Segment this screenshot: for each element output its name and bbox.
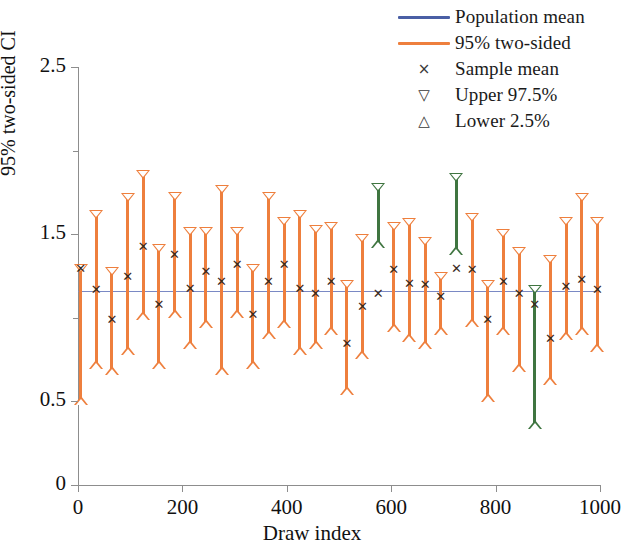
confidence-interval-bar xyxy=(79,268,82,402)
y-tick xyxy=(71,67,78,68)
y-tick xyxy=(71,485,78,486)
upper-bound-marker-fill xyxy=(311,226,321,232)
lower-bound-marker-fill xyxy=(154,363,164,369)
sample-mean-marker: ✕ xyxy=(420,278,431,291)
x-tick xyxy=(391,485,392,492)
upper-bound-marker-fill xyxy=(451,174,461,180)
sample-mean-marker: ✕ xyxy=(561,280,572,293)
confidence-interval-bar xyxy=(377,187,380,244)
sample-mean-marker: ✕ xyxy=(498,275,509,288)
lower-bound-marker-fill xyxy=(498,329,508,335)
lower-bound-marker-fill xyxy=(577,329,587,335)
upper-bound-marker-fill xyxy=(264,193,274,199)
lower-bound-marker-fill xyxy=(138,314,148,320)
upper-bound-marker-fill xyxy=(217,186,227,192)
x-tick-label: 800 xyxy=(480,495,512,520)
lower-bound-marker-fill xyxy=(404,336,414,342)
upper-bound-marker-fill xyxy=(154,245,164,251)
sample-mean-marker: ✕ xyxy=(482,313,493,326)
sample-mean-marker: ✕ xyxy=(185,281,196,294)
upper-bound-marker-fill xyxy=(138,171,148,177)
x-tick xyxy=(496,485,497,492)
sample-mean-marker: ✕ xyxy=(529,298,540,311)
sample-mean-marker: ✕ xyxy=(169,248,180,261)
confidence-interval-bar xyxy=(267,196,270,335)
upper-bound-marker-fill xyxy=(483,281,493,287)
sample-mean-marker: ✕ xyxy=(247,308,258,321)
y-tick-label: 0 xyxy=(56,471,67,496)
lower-bound-marker-fill xyxy=(451,249,461,255)
upper-bound-marker-fill xyxy=(467,214,477,220)
legend-key xyxy=(393,16,455,19)
y-tick xyxy=(71,401,78,402)
upper-bound-marker-fill xyxy=(545,256,555,262)
lower-bound-marker-fill xyxy=(436,329,446,335)
x-tick xyxy=(600,485,601,492)
sample-mean-marker: ✕ xyxy=(404,276,415,289)
lower-bound-marker-fill xyxy=(217,369,227,375)
legend-item-0[interactable]: Population mean xyxy=(393,4,621,30)
sample-mean-marker: ✕ xyxy=(326,275,337,288)
lower-bound-marker-fill xyxy=(311,343,321,349)
lower-bound-marker-fill xyxy=(420,343,430,349)
x-tick xyxy=(182,485,183,492)
sample-mean-marker: ✕ xyxy=(232,258,243,271)
sample-mean-marker: ✕ xyxy=(91,283,102,296)
upper-bound-marker-fill xyxy=(420,238,430,244)
confidence-interval-bar xyxy=(236,231,239,315)
confidence-interval-bar xyxy=(455,177,458,251)
lower-bound-marker-fill xyxy=(545,379,555,385)
confidence-interval-bar xyxy=(361,238,364,355)
lower-bound-marker-fill xyxy=(279,322,289,328)
y-axis-title: 95% two-sided CI xyxy=(0,0,20,176)
sample-mean-marker: ✕ xyxy=(451,261,462,274)
confidence-interval-bar xyxy=(283,221,286,325)
x-tick-label: 400 xyxy=(271,495,303,520)
lower-bound-marker-fill xyxy=(342,389,352,395)
confidence-interval-bar xyxy=(424,241,427,345)
line-swatch xyxy=(398,42,450,45)
lower-bound-marker-fill xyxy=(185,343,195,349)
sample-mean-marker: ✕ xyxy=(592,283,603,296)
x-tick-label: 0 xyxy=(73,495,84,520)
y-tick-label: 1.5 xyxy=(40,220,66,245)
lower-bound-marker-fill xyxy=(357,353,367,359)
x-tick xyxy=(78,485,79,492)
chart-figure: Population mean95% two-sided×Sample mean… xyxy=(0,0,624,553)
upper-bound-marker-fill xyxy=(404,219,414,225)
sample-mean-marker: ✕ xyxy=(373,286,384,299)
lower-bound-marker-fill xyxy=(107,369,117,375)
sample-mean-marker: ✕ xyxy=(435,290,446,303)
sample-mean-marker: ✕ xyxy=(263,275,274,288)
plot-area: ✕✕✕✕✕✕✕✕✕✕✕✕✕✕✕✕✕✕✕✕✕✕✕✕✕✕✕✕✕✕✕✕✕✕ xyxy=(78,67,600,485)
lower-bound-marker-fill xyxy=(467,321,477,327)
lower-bound-marker-fill xyxy=(483,396,493,402)
legend-label: Population mean xyxy=(455,6,585,28)
sample-mean-marker: ✕ xyxy=(200,264,211,277)
x-axis-title: Draw index xyxy=(0,521,624,546)
legend-label: 95% two-sided xyxy=(455,32,571,54)
confidence-interval-bar xyxy=(392,226,395,328)
upper-bound-marker-fill xyxy=(326,223,336,229)
upper-bound-marker-fill xyxy=(342,281,352,287)
legend-item-1[interactable]: 95% two-sided xyxy=(393,30,621,56)
x-axis-line xyxy=(78,485,600,486)
upper-bound-marker-fill xyxy=(373,184,383,190)
y-tick-label: 0.5 xyxy=(40,387,66,412)
x-tick-label: 600 xyxy=(375,495,407,520)
confidence-interval-bar xyxy=(439,276,442,331)
y-tick xyxy=(71,234,78,235)
confidence-interval-bar xyxy=(580,197,583,331)
x-tick-label: 200 xyxy=(167,495,199,520)
sample-mean-marker: ✕ xyxy=(75,261,86,274)
sample-mean-marker: ✕ xyxy=(467,263,478,276)
y-tick-minor xyxy=(73,151,78,152)
x-tick-label: 1000 xyxy=(579,495,621,520)
sample-mean-marker: ✕ xyxy=(279,258,290,271)
upper-bound-marker-fill xyxy=(498,230,508,236)
y-tick-label: 2.5 xyxy=(40,53,66,78)
sample-mean-marker: ✕ xyxy=(294,281,305,294)
sample-mean-marker: ✕ xyxy=(341,336,352,349)
lower-bound-marker-fill xyxy=(592,346,602,352)
lower-bound-marker-fill xyxy=(326,329,336,335)
